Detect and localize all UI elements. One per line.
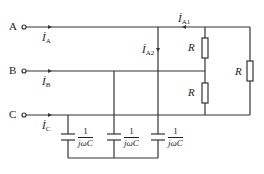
capacitor-2-label: 1 jωC: [124, 127, 139, 148]
terminal-c: [22, 113, 26, 117]
current-ia-label: İA: [42, 32, 51, 45]
resistor-3-label: R: [235, 66, 242, 77]
terminal-c-label: C: [9, 109, 16, 120]
arrow-ib-icon: [48, 69, 52, 73]
current-ib-label: İB: [42, 76, 50, 89]
current-ia2-label: İA2: [142, 44, 154, 57]
arrow-ic-icon: [48, 113, 52, 117]
terminal-b-label: B: [9, 65, 16, 76]
current-ic-label: İC: [42, 120, 50, 133]
arrow-ia2-icon: [156, 48, 160, 52]
capacitor-3-label: 1 jωC: [168, 127, 183, 148]
resistor-1-icon: [202, 38, 208, 58]
resistor-2-label: R: [188, 87, 195, 98]
current-ia1-label: İA1: [178, 13, 190, 26]
terminal-a: [22, 25, 26, 29]
resistor-1-label: R: [188, 42, 195, 53]
terminal-a-label: A: [9, 21, 17, 32]
capacitor-1-label: 1 jωC: [78, 127, 93, 148]
terminal-b: [22, 69, 26, 73]
resistor-3-icon: [247, 61, 253, 81]
arrow-ia-icon: [48, 25, 52, 29]
resistor-2-icon: [202, 83, 208, 103]
